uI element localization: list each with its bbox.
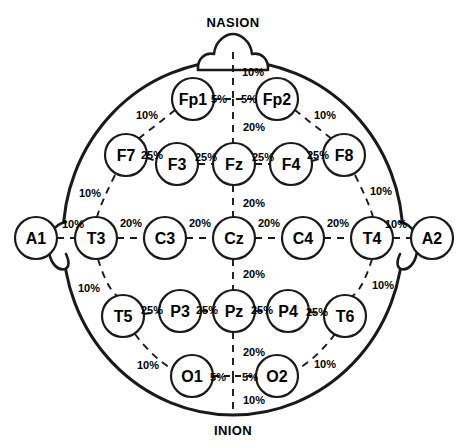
electrode-label: P4	[278, 303, 298, 320]
electrode-label: F3	[168, 156, 187, 173]
electrode-label: Fp2	[263, 91, 292, 108]
head-map-svg: Fp1 Fp2 F7 F3 Fz F4	[0, 0, 466, 448]
electrode-A1[interactable]: A1	[15, 217, 57, 259]
distance-label-f8-t4-10: 10%	[370, 185, 392, 197]
distance-label-cz-c4-20: 20%	[258, 217, 280, 229]
distance-label-mid-o2-5: 5%	[242, 371, 258, 383]
electrode-label: Fz	[225, 156, 243, 173]
electrode-label: C3	[155, 230, 176, 247]
distance-label-pz-p4-25: 25%	[251, 304, 273, 316]
distance-label-nasion-fp-10: 10%	[242, 66, 264, 78]
electrode-A2[interactable]: A2	[411, 217, 453, 259]
distance-label-t3-c3-20: 20%	[120, 217, 142, 229]
electrode-label: O1	[181, 368, 202, 385]
distance-label-o1-mid-5: 5%	[210, 371, 226, 383]
distance-label-fp2-f8-10: 10%	[314, 109, 336, 121]
distance-label-t6-o2-10: 10%	[314, 358, 336, 370]
electrode-label: T6	[336, 308, 355, 325]
eeg-electrode-diagram: Fp1 Fp2 F7 F3 Fz F4	[0, 0, 466, 448]
distance-label-t4-a2-10: 10%	[385, 218, 407, 230]
distance-label-fp1-mid-5: 5%	[211, 93, 227, 105]
distance-label-t3-t5-10: 10%	[78, 282, 100, 294]
electrode-T6[interactable]: T6	[324, 295, 366, 337]
distance-label-f3-fz-25: 25%	[195, 151, 217, 163]
nasion-label: NASION	[207, 15, 260, 30]
electrode-label: F7	[117, 147, 136, 164]
electrode-label: P3	[170, 303, 190, 320]
electrode-label: A1	[26, 230, 47, 247]
electrode-label: Fp1	[179, 91, 208, 108]
electrode-Fz[interactable]: Fz	[213, 143, 255, 185]
distance-label-fp-fz-20: 20%	[243, 121, 265, 133]
distance-label-cz-pz-20: 20%	[243, 268, 265, 280]
electrode-P4[interactable]: P4	[267, 290, 309, 332]
electrode-label: T5	[114, 308, 133, 325]
distance-label-c4-t4-20: 20%	[327, 217, 349, 229]
inion-label: INION	[214, 423, 252, 438]
distance-label-a1-t3-10: 10%	[62, 218, 84, 230]
electrode-O1[interactable]: O1	[171, 355, 213, 397]
distance-label-p3-pz-25: 25%	[196, 304, 218, 316]
distance-label-fp1-f7-10: 10%	[136, 109, 158, 121]
distance-label-fz-cz-20: 20%	[243, 197, 265, 209]
distance-label-f4-f8-25: 25%	[307, 149, 329, 161]
electrode-Cz[interactable]: Cz	[213, 217, 255, 259]
electrode-T5[interactable]: T5	[102, 295, 144, 337]
distance-label-t4-t6-10: 10%	[372, 279, 394, 291]
electrode-label: C4	[293, 230, 314, 247]
distance-label-t5-o1-10: 10%	[137, 359, 159, 371]
electrode-C4[interactable]: C4	[282, 217, 324, 259]
electrode-O2[interactable]: O2	[256, 355, 298, 397]
distance-label-p4-t6-25: 25%	[306, 306, 328, 318]
distance-label-f7-t3-10: 10%	[79, 187, 101, 199]
distance-label-fz-f4-25: 25%	[252, 151, 274, 163]
electrode-label: F4	[282, 156, 301, 173]
distance-label-f7-f3-25: 25%	[141, 149, 163, 161]
electrode-label: F8	[335, 147, 354, 164]
electrode-C3[interactable]: C3	[144, 217, 186, 259]
electrode-label: A2	[422, 230, 443, 247]
electrode-F4[interactable]: F4	[270, 143, 312, 185]
distance-label-mid-fp2-5: 5%	[241, 93, 257, 105]
electrode-Fp2[interactable]: Fp2	[256, 78, 298, 120]
distance-label-c3-cz-20: 20%	[189, 217, 211, 229]
electrode-F8[interactable]: F8	[323, 134, 365, 176]
electrode-label: Pz	[225, 303, 244, 320]
electrode-label: T4	[363, 230, 382, 247]
electrode-label: T3	[87, 230, 106, 247]
distance-label-o-inion-10: 10%	[243, 394, 265, 406]
electrode-label: O2	[266, 368, 287, 385]
electrode-P3[interactable]: P3	[159, 290, 201, 332]
distance-label-t5-p3-25: 25%	[141, 304, 163, 316]
electrode-label: Cz	[224, 230, 244, 247]
electrode-Pz[interactable]: Pz	[213, 290, 255, 332]
electrode-Fp1[interactable]: Fp1	[172, 78, 214, 120]
distance-label-pz-o-20: 20%	[243, 346, 265, 358]
